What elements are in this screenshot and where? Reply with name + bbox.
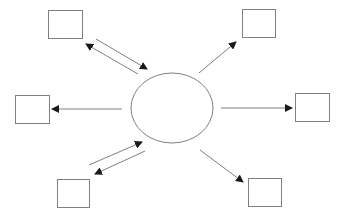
hub-ellipse <box>131 73 213 143</box>
arrow-hub-to-bottom-right <box>200 150 243 182</box>
diagram-canvas <box>0 0 344 217</box>
node-box-left <box>16 96 50 124</box>
arrow-hub-to-bottom-left <box>95 151 145 174</box>
arrow-hub-from-bottom-left <box>89 142 142 165</box>
node-box-bottom-left <box>58 180 90 208</box>
arrow-hub-to-top-right <box>199 42 236 73</box>
node-box-bottom-right <box>249 179 282 207</box>
node-box-top-right <box>243 10 276 38</box>
node-box-right <box>296 94 330 122</box>
hub-spoke-diagram <box>0 0 344 217</box>
hub <box>131 73 213 143</box>
node-box-top-left <box>49 11 83 39</box>
